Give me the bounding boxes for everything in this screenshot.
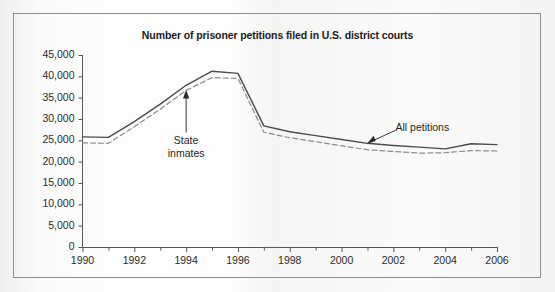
y-axis-tick-label: 20,000 [0, 155, 75, 167]
chart-figure: Number of prisoner petitions filed in U.… [0, 0, 555, 292]
annotation-state-inmates-line2: inmates [146, 147, 226, 160]
y-axis-tick-label: 40,000 [0, 69, 75, 81]
y-axis-tick-label: 25,000 [0, 133, 75, 145]
data-series-group [83, 71, 498, 153]
annotation-state-inmates-line1: State [146, 134, 226, 147]
x-axis-tick-label: 2006 [467, 254, 527, 266]
annotation-all-petitions-arrowhead [367, 136, 376, 144]
axes [79, 55, 498, 252]
annotation-state-inmates-arrowhead [183, 90, 189, 99]
y-axis-tick-label: 0 [0, 240, 75, 252]
y-axis-tick-label: 30,000 [0, 112, 75, 124]
chart-plot-area [0, 0, 555, 292]
y-axis-tick-label: 35,000 [0, 91, 75, 103]
y-axis-tick-label: 45,000 [0, 48, 75, 60]
y-axis-ticks [79, 56, 83, 248]
annotation-all-petitions: All petitions [395, 121, 449, 134]
annotation-state-inmates: State inmates [146, 134, 226, 159]
y-axis-tick-label: 10,000 [0, 197, 75, 209]
y-axis-tick-label: 5,000 [0, 219, 75, 231]
y-axis-tick-label: 15,000 [0, 176, 75, 188]
